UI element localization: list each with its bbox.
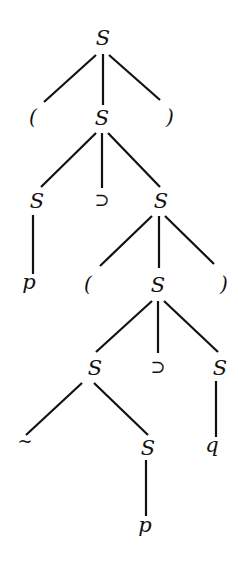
- paren-node: ): [165, 105, 174, 129]
- tree-edge: [94, 383, 148, 435]
- nonterminal-node: S: [88, 356, 102, 380]
- operator-node: ⊃: [150, 356, 165, 377]
- tree-edge: [41, 133, 96, 187]
- nonterminal-node: S: [213, 356, 227, 380]
- nonterminal-node: S: [95, 106, 109, 130]
- terminal-node: p: [22, 270, 35, 294]
- tree-edge: [44, 55, 96, 102]
- tree-edge: [108, 133, 160, 187]
- nonterminal-node: S: [154, 189, 168, 213]
- operator-node: ⊃: [94, 189, 109, 210]
- tree-nodes: S(S)S⊃Sp(S)S⊃S~Sqp: [17, 26, 227, 537]
- tree-edges: [26, 54, 218, 516]
- tree-edge: [100, 216, 152, 266]
- tree-edge: [26, 383, 82, 435]
- paren-node: (: [84, 272, 93, 296]
- paren-node: (: [29, 105, 38, 129]
- tree-edge: [164, 301, 218, 352]
- nonterminal-node: S: [30, 189, 44, 213]
- paren-node: ): [219, 272, 228, 296]
- tree-edge: [96, 301, 152, 352]
- nonterminal-node: S: [96, 26, 110, 50]
- nonterminal-node: S: [151, 273, 165, 297]
- tree-edge: [109, 55, 160, 100]
- terminal-node: p: [138, 513, 151, 537]
- parse-tree-diagram: S(S)S⊃Sp(S)S⊃S~Sqp: [0, 0, 238, 563]
- terminal-node: q: [205, 433, 218, 457]
- tree-edge: [165, 216, 214, 264]
- operator-node: ~: [17, 430, 32, 451]
- nonterminal-node: S: [141, 436, 155, 460]
